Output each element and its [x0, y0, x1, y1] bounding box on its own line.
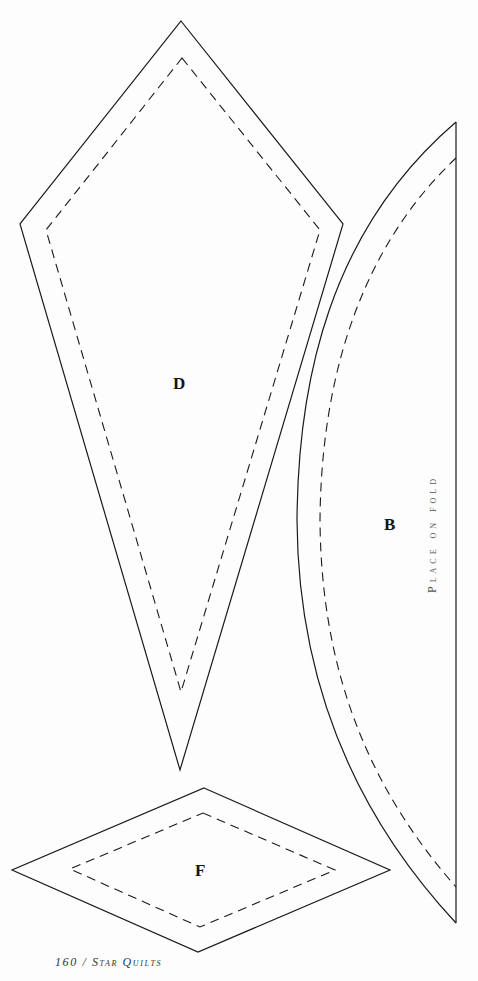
page-number: 160 [55, 955, 78, 969]
piece-d-cutting-line [20, 21, 343, 770]
pattern-page: D B F Place on fold 160 / Star Quilts [0, 0, 478, 981]
book-title: Star Quilts [92, 955, 162, 969]
footer-separator: / [82, 955, 87, 969]
piece-d [20, 21, 343, 770]
piece-f-label: F [195, 862, 205, 879]
page-footer: 160 / Star Quilts [55, 955, 162, 970]
template-drawing [0, 0, 478, 981]
piece-d-label: D [173, 375, 185, 392]
place-on-fold-note: Place on fold [425, 475, 440, 593]
piece-b-label: B [384, 516, 395, 533]
